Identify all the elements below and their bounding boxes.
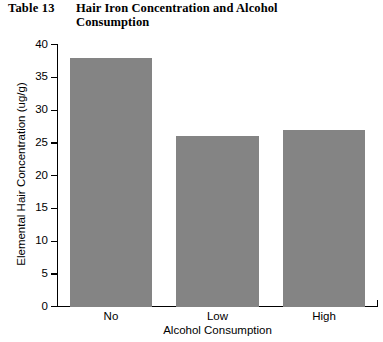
y-axis-tick-label: 30 (4, 104, 48, 115)
y-axis-tick-label-wrap: 20 (0, 170, 48, 181)
y-axis-tick-label-wrap: 0 (0, 301, 48, 312)
bar (176, 136, 259, 306)
y-axis-tick-label-wrap: 40 (0, 39, 48, 50)
y-axis-tick-label-wrap: 25 (0, 137, 48, 148)
y-axis-tick (51, 208, 58, 209)
y-axis-tick (51, 77, 58, 78)
y-axis-tick-label: 25 (4, 137, 48, 148)
plot-area: Elemental Hair Concentration (ug/g) 4035… (0, 0, 383, 342)
y-axis-tick-label: 20 (4, 170, 48, 181)
y-axis-tick (51, 273, 58, 274)
y-axis-tick-label: 40 (4, 39, 48, 50)
y-axis-tick-label-wrap: 30 (0, 104, 48, 115)
bar (283, 130, 366, 307)
x-axis-tick-label: High (274, 310, 374, 323)
y-axis-tick (51, 142, 58, 143)
y-axis-tick (51, 175, 58, 176)
y-axis-tick (51, 44, 58, 45)
y-axis-tick-label: 0 (4, 301, 48, 312)
x-axis-tick-label: No (61, 310, 161, 323)
y-axis-tick (51, 241, 58, 242)
x-axis-title: Alcohol Consumption (57, 324, 378, 337)
y-axis-tick-label-wrap: 5 (0, 268, 48, 279)
y-axis-tick-label: 35 (4, 71, 48, 82)
chart-figure: Table 13 Hair Iron Concentration and Alc… (0, 0, 383, 342)
y-axis-tick-label-wrap: 15 (0, 202, 48, 213)
y-axis-tick-label: 15 (4, 202, 48, 213)
y-axis-tick-label: 10 (4, 235, 48, 246)
y-axis-tick (51, 110, 58, 111)
bar (70, 58, 153, 307)
x-axis-tick-label: Low (168, 310, 268, 323)
x-axis-end-tick (377, 300, 378, 307)
y-axis-tick-label: 5 (4, 268, 48, 279)
y-axis-tick-label-wrap: 35 (0, 71, 48, 82)
y-axis-tick (51, 306, 58, 307)
y-axis-tick-label-wrap: 10 (0, 235, 48, 246)
